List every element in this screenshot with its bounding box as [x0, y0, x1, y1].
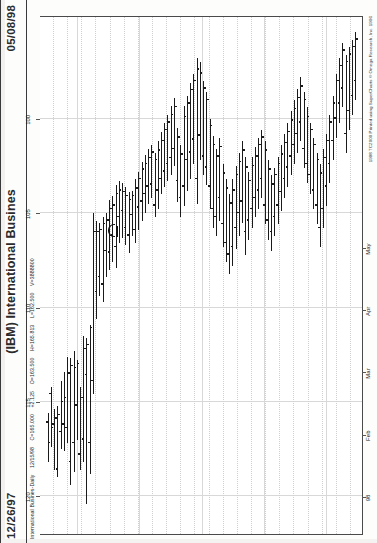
ohlc-open-tick [283, 178, 285, 179]
ohlc-open-tick [331, 140, 333, 141]
ohlc-bar [355, 32, 356, 100]
ohlc-bar [213, 136, 214, 228]
ohlc-bar [177, 128, 178, 202]
ohlc-open-tick [98, 276, 100, 277]
ohlc-open-tick [114, 246, 116, 247]
ohlc-open-tick [91, 380, 93, 381]
ohlc-bar [93, 213, 94, 394]
ohlc-bar [216, 149, 217, 236]
ohlc-bar [164, 123, 165, 187]
ohlc-bar [184, 106, 185, 206]
ohlc-bar [190, 83, 191, 179]
ohlc-bar [310, 123, 311, 195]
ohlc-open-tick [140, 200, 142, 201]
ohlc-open-tick [312, 189, 314, 190]
ohlc-open-tick [95, 291, 97, 292]
ohlc-bar [129, 192, 130, 252]
ohlc-open-tick [185, 159, 187, 160]
ohlc-bar [187, 96, 188, 190]
ohlc-bar [333, 96, 334, 160]
ohlc-bar [329, 115, 330, 183]
ohlc-open-tick [260, 178, 262, 179]
ohlc-bar [261, 130, 262, 198]
plot-area[interactable] [40, 16, 363, 535]
ohlc-bar [349, 47, 350, 130]
ohlc-bar [326, 134, 327, 206]
ohlc-open-tick [159, 178, 161, 179]
ohlc-open-tick [156, 189, 158, 190]
ohlc-close-tick [301, 85, 303, 86]
ohlc-bar [67, 357, 68, 444]
ohlc-bar [248, 172, 249, 240]
ohlc-bar [86, 338, 87, 504]
ohlc-open-tick [153, 204, 155, 205]
time-gridline-minor [209, 17, 210, 534]
ohlc-bar [64, 372, 65, 451]
ohlc-bar [77, 360, 78, 439]
ohlc-open-tick [325, 185, 327, 186]
ohlc-bar [135, 179, 136, 243]
time-tick-mark [362, 310, 366, 311]
ohlc-bar [193, 74, 194, 165]
ohlc-bar [106, 213, 107, 277]
ohlc-open-tick [143, 193, 145, 194]
ohlc-open-tick [221, 223, 223, 224]
ohlc-open-tick [150, 183, 152, 184]
ohlc-bar [155, 153, 156, 217]
ohlc-bar [57, 406, 58, 478]
time-gridline-minor [180, 17, 181, 534]
ohlc-bar [174, 98, 175, 166]
ohlc-open-tick [273, 216, 275, 217]
ohlc-bar [242, 141, 243, 222]
copyright-notice: 1998 TC2000 Printed using SuperCharts © … [368, 16, 373, 535]
ohlc-open-tick [78, 453, 80, 454]
grid-lines [40, 17, 362, 534]
time-gridline-minor [152, 17, 153, 534]
ohlc-bar [339, 58, 340, 122]
time-gridline-minor [166, 17, 167, 534]
ohlc-open-tick [253, 197, 255, 198]
crosshair-base [116, 226, 118, 237]
ohlc-open-tick [299, 121, 301, 122]
time-gridline-minor [194, 17, 195, 534]
ohlc-open-tick [62, 423, 64, 424]
time-gridline-minor [81, 17, 82, 534]
ohlc-bar [70, 359, 71, 485]
ohlc-close-tick [223, 172, 225, 173]
ohlc-bar [74, 351, 75, 472]
crosshair-marker[interactable] [106, 224, 119, 237]
ohlc-bar [151, 145, 152, 198]
ohlc-bar [99, 223, 100, 297]
ohlc-bar [307, 107, 308, 182]
ohlc-close-tick [200, 72, 202, 73]
price-tick-label: 120 [25, 492, 31, 502]
time-gridline-minor [138, 17, 139, 534]
price-tick-label: 105 [25, 209, 31, 219]
ohlc-open-tick [205, 166, 207, 167]
ohlc-close-tick [356, 38, 358, 39]
ohlc-open-tick [75, 404, 77, 405]
ohlc-open-tick [117, 216, 119, 217]
ohlc-open-tick [176, 180, 178, 181]
ohlc-open-tick [166, 163, 168, 164]
ohlc-open-tick [127, 234, 129, 235]
ohlc-close-tick [265, 150, 267, 151]
crosshair-arc [108, 224, 115, 237]
time-gridline-minor [308, 17, 309, 534]
time-gridline [326, 17, 327, 534]
ohlc-close-tick [210, 125, 212, 126]
time-gridline-minor [251, 17, 252, 534]
ohlc-open-tick [266, 219, 268, 220]
ohlc-bar [336, 74, 337, 138]
ohlc-bar [252, 157, 253, 229]
time-tick-mark [362, 248, 366, 249]
ohlc-open-tick [82, 438, 84, 439]
ohlc-bar [239, 153, 240, 236]
ohlc-bar [274, 168, 275, 236]
ohlc-open-tick [108, 251, 110, 252]
ohlc-open-tick [286, 166, 288, 167]
ohlc-bar [352, 40, 353, 115]
ohlc-bar [258, 138, 259, 210]
ohlc-open-tick [198, 134, 200, 135]
ohlc-open-tick [218, 197, 220, 198]
